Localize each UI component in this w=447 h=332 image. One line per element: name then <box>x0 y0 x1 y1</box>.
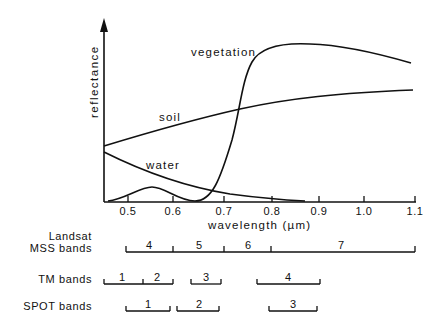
tm-band-number: 2 <box>154 272 160 283</box>
mss-band-number: 5 <box>196 240 202 251</box>
tm-band-number: 1 <box>119 272 125 283</box>
mss-bands-bracket <box>126 246 415 252</box>
x-tick-label: 0.9 <box>310 206 327 217</box>
water-label: water <box>146 160 180 172</box>
water-curve <box>104 152 305 201</box>
tm-bands-label: TM bands <box>38 273 92 285</box>
x-axis-label: wavelength (µm) <box>208 220 311 232</box>
x-tick-label: 0.5 <box>119 206 136 217</box>
mss-bands-label: Landsat MSS bands <box>30 230 92 254</box>
x-tick-label: 0.6 <box>164 206 181 217</box>
spot-band-number: 1 <box>145 299 151 310</box>
soil-label: soil <box>159 112 181 124</box>
mss-band-number: 4 <box>146 240 152 251</box>
vegetation-label: vegetation <box>191 47 256 59</box>
y-axis-label: reflectance <box>88 45 100 118</box>
mss-band-number: 7 <box>338 240 344 251</box>
x-tick-label: 0.7 <box>215 206 232 217</box>
x-tick-label: 0.8 <box>263 206 280 217</box>
mss-band-number: 6 <box>245 240 251 251</box>
spot-band-number: 3 <box>290 299 296 310</box>
spot-band-number: 2 <box>196 299 202 310</box>
tm-band-number: 4 <box>285 272 291 283</box>
tm-band-number: 3 <box>203 272 209 283</box>
spot-bands-label: SPOT bands <box>23 300 92 312</box>
soil-curve <box>104 90 413 146</box>
spot-bands-bracket <box>126 306 317 311</box>
mss-label-line1: Landsat <box>30 230 92 242</box>
x-tick-label: 1.1 <box>406 206 423 217</box>
y-axis-arrow-icon <box>100 18 108 32</box>
vegetation-curve <box>108 44 411 201</box>
x-tick-label: 1.0 <box>355 206 372 217</box>
mss-label-line2: MSS bands <box>30 242 92 254</box>
